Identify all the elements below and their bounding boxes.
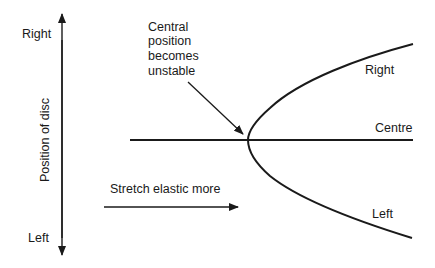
axis-bottom-label: Left bbox=[28, 231, 49, 245]
annotation-line-4: unstable bbox=[148, 64, 195, 78]
diagram-canvas: Right Left Position of disc Central posi… bbox=[0, 0, 435, 268]
left-branch-curve bbox=[248, 140, 412, 238]
stretch-label: Stretch elastic more bbox=[110, 182, 221, 196]
right-branch-label: Right bbox=[365, 63, 395, 77]
annotation-line-2: position bbox=[148, 34, 191, 48]
axis-top-label: Right bbox=[22, 27, 52, 41]
centre-branch-label: Centre bbox=[375, 121, 413, 135]
annotation-line-3: becomes bbox=[148, 49, 199, 63]
left-branch-label: Left bbox=[372, 207, 393, 221]
annotation-pointer-arrow-icon bbox=[188, 82, 243, 134]
bifurcation-diagram: Right Left Position of disc Central posi… bbox=[0, 0, 435, 268]
instability-annotation: Central position becomes unstable bbox=[148, 20, 199, 78]
annotation-line-1: Central bbox=[148, 20, 188, 34]
axis-title: Position of disc bbox=[38, 98, 52, 182]
